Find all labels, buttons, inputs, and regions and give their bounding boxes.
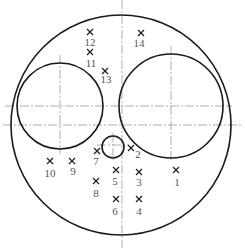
point-10: 10: [45, 158, 57, 179]
measurement-points: 1234567891011121314: [45, 29, 180, 217]
point-label: 14: [134, 37, 146, 49]
point-label: 9: [70, 165, 76, 177]
point-label: 4: [136, 205, 142, 217]
point-3: 3: [136, 169, 142, 188]
point-label: 3: [136, 176, 142, 188]
point-9: 9: [69, 158, 76, 177]
point-label: 10: [45, 167, 57, 179]
point-label: 6: [112, 205, 118, 217]
point-label: 7: [93, 155, 99, 167]
point-2: 2: [128, 145, 141, 160]
point-12: 12: [85, 29, 96, 48]
point-14: 14: [134, 30, 146, 49]
point-8: 8: [93, 178, 99, 199]
point-label: 8: [93, 187, 99, 199]
point-label: 11: [86, 57, 97, 69]
point-label: 2: [135, 148, 141, 160]
point-label: 13: [101, 73, 113, 85]
point-1: 1: [173, 167, 180, 188]
diagram-canvas: 1234567891011121314: [0, 0, 245, 248]
point-label: 12: [85, 36, 96, 48]
point-7: 7: [93, 148, 100, 167]
point-6: 6: [112, 196, 119, 217]
cross-section-diagram: 1234567891011121314: [0, 0, 245, 248]
point-4: 4: [136, 196, 142, 217]
point-13: 13: [101, 68, 113, 85]
point-label: 5: [112, 175, 118, 187]
point-5: 5: [112, 167, 119, 187]
point-label: 1: [174, 176, 180, 188]
point-11: 11: [86, 49, 97, 69]
